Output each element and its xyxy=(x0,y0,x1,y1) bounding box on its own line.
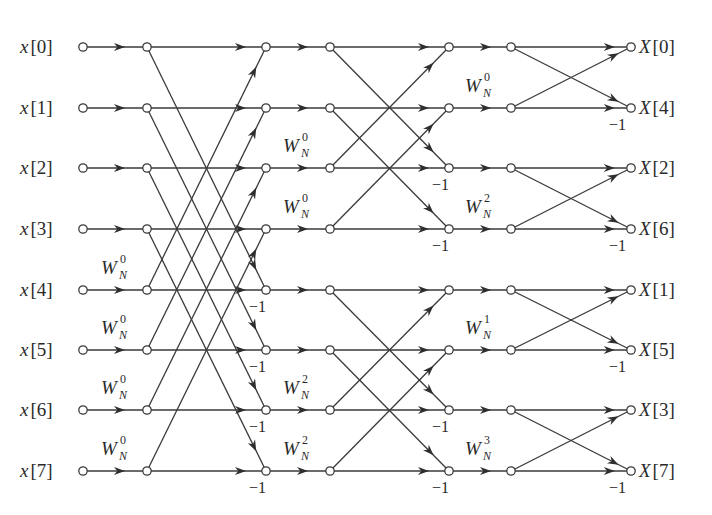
input-label: x[7] xyxy=(19,460,53,481)
junction-node xyxy=(262,43,270,51)
junction-node xyxy=(143,225,151,233)
output-label: X[1] xyxy=(638,279,675,300)
twiddle-factor-label: W2N xyxy=(283,372,310,402)
output-node xyxy=(627,346,635,354)
svg-text:0: 0 xyxy=(484,70,490,84)
input-node xyxy=(79,467,87,475)
junction-node xyxy=(143,286,151,294)
twiddle-factor-label: W0N xyxy=(101,372,128,402)
svg-text:N: N xyxy=(118,449,128,463)
junction-node xyxy=(326,43,334,51)
svg-text:N: N xyxy=(118,388,128,402)
arrowhead-icon xyxy=(607,214,619,223)
svg-text:N: N xyxy=(300,388,310,402)
svg-text:W: W xyxy=(101,317,119,338)
svg-text:2: 2 xyxy=(484,191,490,205)
arrowhead-icon xyxy=(607,53,619,62)
arrowhead-icon xyxy=(607,416,619,425)
junction-node xyxy=(507,225,515,233)
svg-text:N: N xyxy=(482,328,492,342)
svg-text:3: 3 xyxy=(484,433,490,447)
svg-text:W: W xyxy=(465,438,483,459)
svg-text:W: W xyxy=(283,438,301,459)
svg-text:N: N xyxy=(482,449,492,463)
arrowhead-icon xyxy=(607,174,619,183)
junction-node xyxy=(445,164,453,172)
junction-node xyxy=(507,164,515,172)
junction-node xyxy=(445,346,453,354)
output-label: X[0] xyxy=(638,36,675,57)
output-label: X[3] xyxy=(638,399,675,420)
svg-text:W: W xyxy=(101,377,119,398)
svg-text:N: N xyxy=(300,146,310,160)
wires-layer xyxy=(87,47,631,471)
twiddle-factor-label: W0N xyxy=(101,252,128,282)
junction-node xyxy=(326,164,334,172)
output-label: X[2] xyxy=(638,157,675,178)
junction-node xyxy=(326,286,334,294)
junction-node xyxy=(445,406,453,414)
junction-node xyxy=(326,225,334,233)
minus-one-label: −1 xyxy=(249,298,266,315)
svg-text:N: N xyxy=(482,86,492,100)
junction-node xyxy=(445,43,453,51)
minus-one-label: −1 xyxy=(249,358,266,375)
twiddle-factor-label: W0N xyxy=(283,191,310,221)
input-label: x[1] xyxy=(19,97,53,118)
junction-node xyxy=(262,164,270,172)
minus-one-label: −1 xyxy=(609,358,626,375)
junction-node xyxy=(262,286,270,294)
svg-text:0: 0 xyxy=(302,191,308,205)
junction-node xyxy=(143,346,151,354)
minus-one-label: −1 xyxy=(249,479,266,496)
svg-text:N: N xyxy=(482,207,492,221)
svg-text:W: W xyxy=(465,317,483,338)
svg-text:0: 0 xyxy=(120,252,126,266)
svg-text:W: W xyxy=(283,135,301,156)
input-label: x[5] xyxy=(19,339,53,360)
junction-node xyxy=(445,467,453,475)
svg-text:0: 0 xyxy=(302,130,308,144)
twiddle-factor-label: W2N xyxy=(283,433,310,463)
minus-one-label: −1 xyxy=(432,418,449,435)
junction-node xyxy=(507,467,515,475)
svg-text:1: 1 xyxy=(484,312,490,326)
minus-one-label: −1 xyxy=(609,116,626,133)
minus-one-label: −1 xyxy=(249,418,266,435)
twiddle-factor-label: W1N xyxy=(465,312,492,342)
svg-text:W: W xyxy=(101,438,119,459)
junction-node xyxy=(507,43,515,51)
output-label: X[4] xyxy=(638,97,675,118)
twiddle-factor-label: W0N xyxy=(101,312,128,342)
svg-text:W: W xyxy=(283,196,301,217)
junction-node xyxy=(143,164,151,172)
junction-node xyxy=(262,346,270,354)
svg-text:W: W xyxy=(465,196,483,217)
twiddle-factor-label: W0N xyxy=(283,130,310,160)
output-label: X[6] xyxy=(638,218,675,239)
junction-node xyxy=(507,286,515,294)
input-node xyxy=(79,346,87,354)
input-label: x[0] xyxy=(19,36,53,57)
svg-text:W: W xyxy=(465,75,483,96)
output-node xyxy=(627,43,635,51)
minus-one-label: −1 xyxy=(609,237,626,254)
arrowhead-icon xyxy=(607,93,619,102)
output-label: X[7] xyxy=(638,460,675,481)
output-node xyxy=(627,164,635,172)
minus-one-label: −1 xyxy=(432,479,449,496)
junction-node xyxy=(262,104,270,112)
twiddle-factor-label: W3N xyxy=(465,433,492,463)
junction-node xyxy=(143,406,151,414)
junction-node xyxy=(262,406,270,414)
junction-node xyxy=(143,43,151,51)
junction-node xyxy=(507,346,515,354)
input-node xyxy=(79,225,87,233)
output-node xyxy=(627,286,635,294)
svg-text:2: 2 xyxy=(302,372,308,386)
junction-node xyxy=(445,104,453,112)
junction-node xyxy=(445,286,453,294)
junction-node xyxy=(262,225,270,233)
junction-node xyxy=(326,406,334,414)
input-node xyxy=(79,43,87,51)
